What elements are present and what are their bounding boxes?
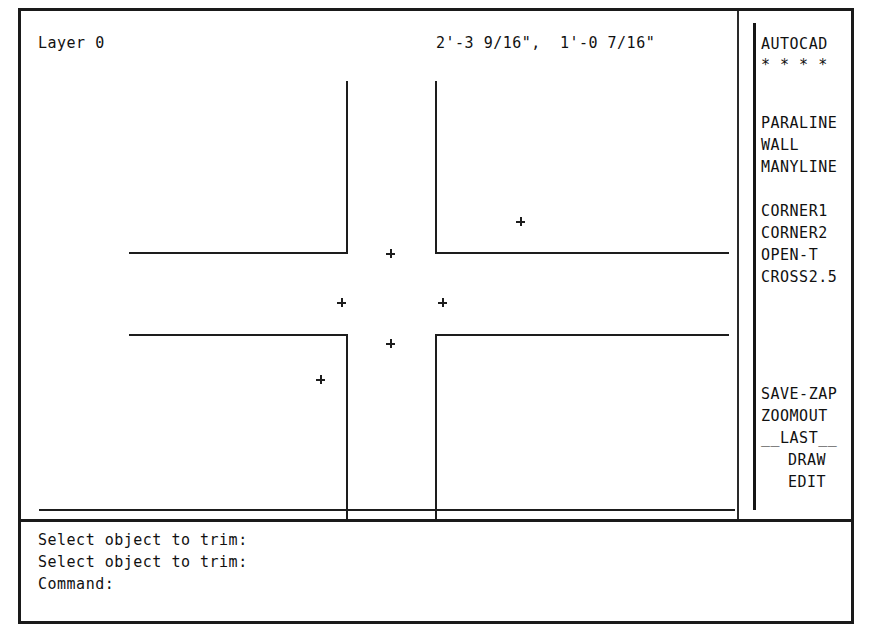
wall-line-horizontal[interactable]	[39, 509, 735, 511]
menu-item-draw[interactable]: DRAW	[761, 451, 853, 470]
menu-item-wall[interactable]: WALL	[761, 136, 853, 155]
blip-marker-icon	[438, 298, 447, 307]
menu-divider	[753, 23, 756, 510]
menu-item-last[interactable]: __LAST__	[761, 429, 853, 448]
wall-line-vertical[interactable]	[435, 81, 437, 252]
wall-line-vertical[interactable]	[346, 81, 348, 252]
menu-item-corner1[interactable]: CORNER1	[761, 202, 853, 221]
menu-item-manyline[interactable]: MANYLINE	[761, 158, 853, 177]
command-line-area[interactable]: Select object to trim: Select object to …	[21, 522, 851, 621]
command-history-line: Select object to trim:	[38, 553, 248, 571]
menu-item-cross25[interactable]: CROSS2.5	[761, 268, 853, 287]
command-history-line: Select object to trim:	[38, 531, 248, 549]
menu-item-edit[interactable]: EDIT	[761, 473, 853, 492]
drawing-area[interactable]: Layer 0 2'-3 9/16", 1'-0 7/16"	[21, 11, 735, 519]
graphics-area-border	[737, 11, 739, 519]
menu-item-save-zap[interactable]: SAVE-ZAP	[761, 385, 853, 404]
blip-marker-icon	[516, 217, 525, 226]
blip-marker-icon	[316, 375, 325, 384]
wall-line-horizontal[interactable]	[435, 252, 729, 254]
wall-line-horizontal[interactable]	[435, 334, 729, 336]
wall-line-horizontal[interactable]	[129, 252, 348, 254]
screen-menu-panel: AUTOCAD * * * * PARALINE WALL MANYLINE C…	[735, 11, 851, 519]
menu-item-corner2[interactable]: CORNER2	[761, 224, 853, 243]
autocad-screen: Layer 0 2'-3 9/16", 1'-0 7/16" AUTOCAD *…	[18, 8, 854, 624]
wall-line-horizontal[interactable]	[129, 334, 348, 336]
menu-item-open-t[interactable]: OPEN-T	[761, 246, 853, 265]
coordinate-readout: 2'-3 9/16", 1'-0 7/16"	[436, 34, 655, 52]
blip-marker-icon	[386, 249, 395, 258]
menu-item-paraline[interactable]: PARALINE	[761, 114, 853, 133]
menu-separator-stars[interactable]: * * * *	[761, 56, 853, 75]
menu-item-zoomout[interactable]: ZOOMOUT	[761, 407, 853, 426]
wall-line-vertical[interactable]	[435, 334, 437, 519]
blip-marker-icon	[337, 298, 346, 307]
command-prompt[interactable]: Command:	[38, 575, 114, 593]
wall-line-vertical[interactable]	[346, 334, 348, 519]
menu-title[interactable]: AUTOCAD	[761, 35, 853, 54]
blip-marker-icon	[386, 339, 395, 348]
layer-status-text: Layer 0	[38, 34, 105, 52]
